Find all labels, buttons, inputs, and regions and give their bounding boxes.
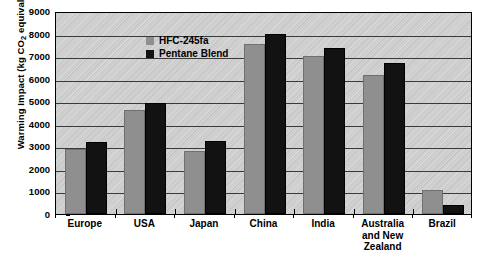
bar-hfc-245fa — [303, 56, 324, 214]
x-axis-label-line: USA — [115, 218, 175, 230]
y-tick-label: 5000 — [16, 97, 50, 107]
bar-pentane-blend — [384, 63, 405, 214]
bar-hfc-245fa — [124, 110, 145, 214]
bar-hfc-245fa — [363, 75, 384, 214]
x-axis-labels: EuropeUSAJapanChinaIndiaAustraliaand New… — [55, 218, 472, 268]
y-tick-label: 9000 — [16, 7, 50, 17]
y-tick-label: 3000 — [16, 142, 50, 152]
bar-hfc-245fa — [65, 149, 86, 214]
x-axis-label: Europe — [55, 218, 115, 230]
y-tick-label: 8000 — [16, 30, 50, 40]
x-axis-label-line: Europe — [55, 218, 115, 230]
y-tick-label: 4000 — [16, 120, 50, 130]
category-separator — [175, 209, 176, 214]
x-tick-mark — [115, 214, 116, 218]
warming-impact-bar-chart: Warming Impact (kg CO2 equivalent) 01000… — [0, 0, 483, 270]
x-tick-mark — [353, 214, 354, 218]
x-axis-label: Japan — [174, 218, 234, 230]
bar-hfc-245fa — [184, 151, 205, 214]
category-separator — [116, 209, 117, 214]
bar-hfc-245fa — [422, 190, 443, 214]
legend-label-hfc-245fa: HFC-245fa — [159, 36, 208, 46]
y-axis-ticks: 0100020003000400050006000700080009000 — [16, 0, 50, 270]
x-axis-label-line: Zealand — [353, 241, 413, 253]
legend-swatch-icon-pentane-blend — [146, 50, 154, 58]
y-tick-label: 0 — [16, 210, 50, 220]
x-axis-label-line: and New — [353, 230, 413, 242]
x-axis-label-line: Australia — [353, 218, 413, 230]
x-tick-mark — [293, 214, 294, 218]
x-axis-label: Brazil — [412, 218, 472, 230]
x-axis-label-line: Brazil — [412, 218, 472, 230]
x-axis-label-line: India — [293, 218, 353, 230]
x-tick-mark — [174, 214, 175, 218]
chart-legend: HFC-245fa Pentane Blend — [146, 35, 228, 61]
y-tick-label: 6000 — [16, 75, 50, 85]
x-tick-mark — [412, 214, 413, 218]
bar-pentane-blend — [265, 34, 286, 214]
bar-pentane-blend — [324, 48, 345, 214]
category-separator — [294, 209, 295, 214]
plot-area: HFC-245fa Pentane Blend — [55, 12, 472, 215]
bar-hfc-245fa — [244, 44, 265, 214]
bar-pentane-blend — [145, 103, 166, 214]
y-tick-label: 7000 — [16, 52, 50, 62]
legend-label-pentane-blend: Pentane Blend — [159, 49, 228, 59]
x-axis-label: India — [293, 218, 353, 230]
bar-pentane-blend — [86, 142, 107, 214]
y-tick-mark — [66, 215, 70, 216]
legend-item-pentane-blend: Pentane Blend — [146, 48, 228, 60]
y-tick-label: 2000 — [16, 165, 50, 175]
bar-pentane-blend — [205, 141, 226, 214]
x-axis-label-line: China — [234, 218, 294, 230]
x-axis-label: USA — [115, 218, 175, 230]
x-tick-mark — [234, 214, 235, 218]
x-axis-label: China — [234, 218, 294, 230]
category-separator — [413, 209, 414, 214]
category-separator — [354, 209, 355, 214]
category-separator — [235, 209, 236, 214]
x-axis-label: Australiaand NewZealand — [353, 218, 413, 253]
x-axis-label-line: Japan — [174, 218, 234, 230]
legend-swatch-icon-hfc-245fa — [146, 37, 154, 45]
y-tick-label: 1000 — [16, 187, 50, 197]
bar-pentane-blend — [443, 205, 464, 214]
legend-item-hfc-245fa: HFC-245fa — [146, 35, 228, 47]
gridline — [56, 36, 471, 37]
x-tick-mark — [55, 214, 56, 218]
x-tick-mark — [471, 214, 472, 218]
